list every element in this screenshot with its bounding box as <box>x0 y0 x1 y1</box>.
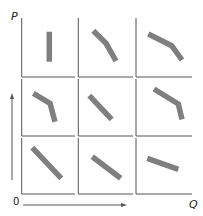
diagram-canvas <box>0 0 203 216</box>
x-axis-label: Q <box>189 198 198 211</box>
y-axis-label: P <box>11 10 18 23</box>
panel-axis-r2c2 <box>78 79 133 136</box>
demand-curve-r1c2 <box>93 31 116 61</box>
quantity-arrow-head <box>121 203 127 207</box>
demand-curve-r2c3 <box>154 89 182 119</box>
demand-curves <box>32 31 182 179</box>
price-arrow-head <box>10 93 14 99</box>
origin-label: 0 <box>13 196 19 207</box>
demand-curve-r3c1 <box>32 148 61 179</box>
demand-curve-r3c2 <box>92 157 120 179</box>
demand-curve-r2c2 <box>89 96 111 120</box>
arrows <box>10 93 127 207</box>
demand-curve-r1c3 <box>148 34 182 60</box>
demand-curve-r2c1 <box>33 93 55 121</box>
panel-axis-r2c3 <box>136 79 192 136</box>
panel-axis-r1c3 <box>136 18 192 77</box>
demand-curve-r3c3 <box>147 158 178 169</box>
